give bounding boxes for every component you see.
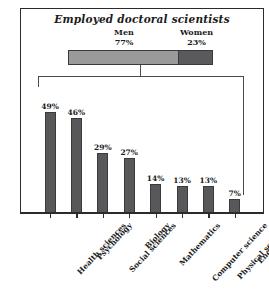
bar-mathematics: 14% bbox=[149, 174, 162, 214]
stacked-segment-men bbox=[69, 51, 178, 64]
bar-health-sciences: 49% bbox=[44, 102, 57, 214]
stacked-bar-labels: Men 77% Women 23% bbox=[68, 28, 213, 48]
bar-rect bbox=[177, 186, 188, 213]
bar-computer-science: 13% bbox=[176, 176, 189, 214]
bar-engineering: 7% bbox=[228, 189, 241, 214]
segment-label-men: Men 77% bbox=[68, 28, 180, 47]
x-axis-line bbox=[20, 212, 264, 214]
bar-rect bbox=[45, 112, 56, 213]
x-axis-label: Mathematics bbox=[177, 221, 221, 268]
bar-value-label: 49% bbox=[41, 102, 59, 111]
x-tick bbox=[156, 212, 157, 218]
segment-percent-women: 23% bbox=[180, 38, 213, 48]
bar-plot-area: 49%46%29%27%14%13%13%7% bbox=[20, 86, 264, 213]
chart-figure: Percentage of women, by field Employed d… bbox=[0, 0, 269, 291]
x-tick bbox=[50, 212, 51, 218]
x-tick bbox=[182, 212, 183, 218]
x-tick bbox=[208, 212, 209, 218]
bar-rect bbox=[71, 118, 82, 213]
bar-social-sciences: 29% bbox=[96, 143, 109, 214]
bar-rect bbox=[124, 158, 135, 213]
bar-value-label: 7% bbox=[229, 189, 241, 198]
bar-rect bbox=[203, 186, 214, 213]
bar-value-label: 46% bbox=[68, 108, 86, 117]
x-tick bbox=[76, 212, 77, 218]
connector-top bbox=[38, 76, 244, 77]
x-tick bbox=[235, 212, 236, 218]
bar-value-label: 14% bbox=[147, 174, 165, 183]
bar-value-label: 13% bbox=[200, 176, 218, 185]
bar-rect bbox=[97, 153, 108, 213]
x-tick bbox=[129, 212, 130, 218]
segment-label-women: Women 23% bbox=[180, 28, 213, 47]
segment-percent-men: 77% bbox=[68, 38, 180, 48]
bar-biology: 27% bbox=[123, 148, 136, 214]
bar-rect bbox=[229, 199, 240, 213]
x-tick bbox=[103, 212, 104, 218]
stacked-bar bbox=[68, 50, 213, 65]
stacked-segment-women bbox=[178, 51, 212, 64]
chart-title: Employed doctoral scientists bbox=[20, 13, 264, 25]
bar-value-label: 27% bbox=[120, 148, 138, 157]
bar-psychology: 46% bbox=[70, 108, 83, 214]
connector-stem bbox=[140, 65, 141, 76]
bar-rect bbox=[150, 184, 161, 213]
bar-physical-sciences: 13% bbox=[202, 176, 215, 214]
bar-value-label: 13% bbox=[173, 176, 191, 185]
bar-value-label: 29% bbox=[94, 143, 112, 152]
